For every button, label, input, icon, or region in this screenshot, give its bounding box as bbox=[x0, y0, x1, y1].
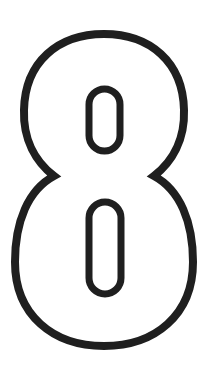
upper-counter bbox=[89, 89, 120, 151]
lower-counter bbox=[89, 202, 121, 294]
numeral-eight-outline-icon bbox=[0, 0, 209, 368]
outer-outline bbox=[15, 34, 193, 346]
